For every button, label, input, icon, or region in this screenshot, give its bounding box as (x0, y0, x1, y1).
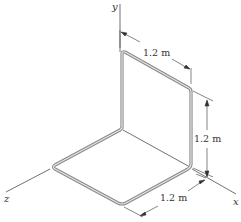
rod-frame-diagram: y x z 1.2 m 1.2 m 1.2 m (0, 0, 241, 222)
vertical-dimension-label: 1.2 m (194, 133, 221, 144)
x-axis-inner (123, 130, 190, 167)
z-axis (6, 169, 50, 192)
x-axis (192, 169, 236, 194)
z-axis-label: z (3, 193, 10, 204)
x-axis-label: x (233, 196, 239, 207)
top-dimension-label: 1.2 m (143, 47, 170, 58)
y-axis-label: y (111, 1, 118, 12)
bottom-dimension-label: 1.2 m (160, 192, 187, 203)
rod-frame (54, 52, 192, 204)
